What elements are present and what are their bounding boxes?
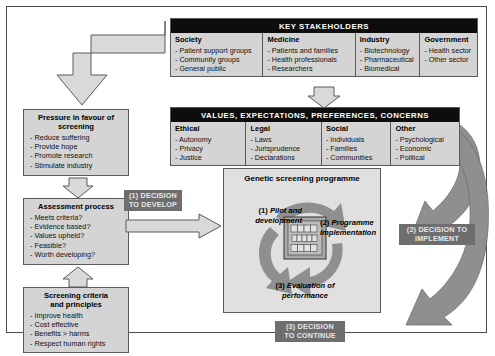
decision-chip-continue[interactable]: (3) DECISION TO CONTINUE	[275, 321, 345, 342]
stakeholder-column-society: Society Patient support groups Community…	[171, 33, 263, 76]
list-item: Families	[326, 144, 387, 153]
column-title: Other	[395, 124, 455, 134]
stage-label-evaluation: (3) Evaluation of performance	[244, 281, 366, 300]
stage-text-line1: Programme	[331, 218, 373, 227]
list-item: Patient support groups	[175, 46, 258, 55]
right-arrow-assessment-to-programme	[125, 213, 223, 239]
list-item: Communities	[326, 153, 387, 162]
list-item: Jurisprudence	[250, 144, 316, 153]
diagram-frame: KEY STAKEHOLDERS Society Patient support…	[6, 6, 487, 333]
stage-text-line2: implementation	[320, 228, 376, 237]
values-column-ethical: Ethical Autonomy Privacy Justice	[171, 122, 246, 165]
column-title: Medicine	[267, 35, 350, 45]
values-table: VALUES, EXPECTATIONS, PREFERENCES, CONCE…	[170, 107, 460, 166]
list-item: Economic	[395, 144, 455, 153]
column-title: Society	[175, 35, 258, 45]
column-title: Industry	[360, 35, 416, 45]
list-item: Privacy	[175, 144, 241, 153]
up-arrow-criteria-to-assessment	[60, 266, 96, 288]
values-column-social: Social Individuals Families Communities	[322, 122, 392, 165]
values-bar: VALUES, EXPECTATIONS, PREFERENCES, CONCE…	[171, 108, 459, 122]
key-stakeholders-bar: KEY STAKEHOLDERS	[171, 19, 477, 33]
list-item: Individuals	[326, 135, 387, 144]
list-item: Pharmaceutical	[360, 55, 416, 64]
stage-label-pilot: (1) Pilot and development	[228, 206, 302, 225]
stage-number: (2)	[320, 218, 329, 227]
list-item: Autonomy	[175, 135, 241, 144]
list-item: General public	[175, 64, 258, 73]
values-column-other: Other Psychological Economic Political	[391, 122, 459, 165]
list-item: Reduce suffering	[30, 133, 128, 142]
list-item: Provide hope	[30, 142, 128, 151]
list-item: Feasible?	[30, 241, 128, 250]
box-title-line1: Screening criteria	[44, 291, 108, 300]
list-item: Patients and families	[267, 46, 350, 55]
stage-text-line1: Evaluation of	[287, 281, 335, 290]
decision-chip-develop[interactable]: (1) DECISION TO DEVELOP	[124, 190, 182, 211]
genetic-screening-programme-panel: Genetic screening programme	[223, 168, 381, 313]
column-title: Social	[326, 124, 387, 134]
box-screening-criteria: Screening criteria and principles Improv…	[23, 287, 129, 353]
programme-title: Genetic screening programme	[224, 169, 380, 183]
list-item: Health sector	[424, 46, 473, 55]
list-item: Benefits > harms	[30, 329, 128, 338]
list-item: Psychological	[395, 135, 455, 144]
stakeholder-column-government: Government Health sector Other sector	[420, 33, 477, 76]
list-item: Researchers	[267, 64, 350, 73]
list-item: Meets criteria?	[30, 213, 128, 222]
column-title: Ethical	[175, 124, 241, 134]
list-item: Other sector	[424, 55, 473, 64]
list-item: Biotechnology	[360, 46, 416, 55]
box-title-line2: screening	[58, 122, 94, 131]
box-assessment-process: Assessment process Meets criteria? Evide…	[23, 198, 129, 265]
list-item: Declarations	[250, 153, 316, 162]
stage-text-line1: Pilot and	[270, 206, 302, 215]
list-item: Stimulate industry	[30, 161, 128, 170]
stage-number: (1)	[259, 206, 268, 215]
list-item: Community groups	[175, 55, 258, 64]
box-title-line1: Assessment process	[38, 202, 114, 211]
chip-line2: IMPLEMENT	[415, 234, 459, 243]
decision-chip-implement[interactable]: (2) DECISION TO IMPLEMENT	[399, 224, 475, 245]
stage-text-line2: performance	[282, 291, 328, 300]
column-title: Government	[424, 35, 473, 45]
elbow-arrow-stakeholders-to-pressure	[25, 13, 175, 113]
box-title-line2: and principles	[50, 300, 101, 309]
list-item: Worth developing?	[30, 250, 128, 259]
list-item: Respect human rights	[30, 339, 128, 348]
down-arrow-pressure-to-assessment	[60, 177, 96, 199]
chip-line2: TO DEVELOP	[129, 200, 177, 209]
stakeholder-column-medicine: Medicine Patients and families Health pr…	[263, 33, 355, 76]
list-item: Biomedical	[360, 64, 416, 73]
list-item: Promote research	[30, 151, 128, 160]
chip-line2: TO CONTINUE	[284, 331, 336, 340]
list-item: Evidence based?	[30, 222, 128, 231]
list-item: Health professionals	[267, 55, 350, 64]
stage-text-line2: development	[255, 216, 302, 225]
column-title: Legal	[250, 124, 316, 134]
key-stakeholders-table: KEY STAKEHOLDERS Society Patient support…	[170, 18, 478, 77]
list-item: Laws	[250, 135, 316, 144]
list-item: Justice	[175, 153, 241, 162]
stakeholder-column-industry: Industry Biotechnology Pharmaceutical Bi…	[356, 33, 421, 76]
list-item: Improve health	[30, 311, 128, 320]
stage-number: (3)	[275, 281, 284, 290]
box-pressure-in-favour: Pressure in favour of screening Reduce s…	[23, 109, 129, 176]
list-item: Cost effective	[30, 320, 128, 329]
box-title-line1: Pressure in favour of	[38, 113, 114, 122]
list-item: Values upheld?	[30, 231, 128, 240]
list-item: Political	[395, 153, 455, 162]
stage-label-implementation: (2) Programme implementation	[320, 218, 382, 237]
values-column-legal: Legal Laws Jurisprudence Declarations	[246, 122, 321, 165]
